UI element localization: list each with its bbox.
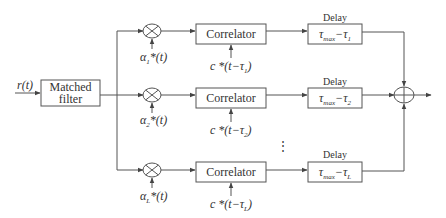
delay-L-to-summer-arrow	[362, 104, 404, 171]
code-L-label: c *(t−τL)	[210, 197, 252, 213]
input-signal: r(t)	[15, 78, 40, 93]
input-label: r(t)	[17, 78, 33, 92]
multiplier-icon	[143, 88, 161, 102]
more-branches-ellipsis: ⋮	[277, 139, 289, 153]
code-2-label: c *(t−τ2)	[210, 123, 252, 139]
multiplier-icon	[143, 24, 161, 38]
matched-filter-label-line2: filter	[59, 92, 82, 106]
summer-plus-icon	[394, 87, 414, 103]
multiplier-icon	[143, 163, 161, 177]
weight-L-label: αL*(t)	[140, 189, 168, 205]
code-1-label: c *(t−τ1)	[210, 59, 252, 75]
delay-1-to-summer-arrow	[362, 32, 404, 86]
weight-1-label: α1*(t)	[140, 50, 167, 66]
weight-2-label: α2*(t)	[140, 113, 167, 129]
delay-L-title: Delay	[323, 149, 347, 160]
delay-2-title: Delay	[323, 76, 347, 87]
correlator-L-label: Correlator	[206, 165, 255, 179]
matched-filter-block: Matched filter	[41, 80, 100, 106]
branch-2: α2*(t) Correlator c *(t−τ2) Delay τmax−τ…	[117, 76, 394, 139]
correlator-2-label: Correlator	[206, 91, 255, 105]
branch-1: α1*(t) Correlator c *(t−τ1) Delay τmax−τ…	[117, 12, 404, 86]
delay-1-title: Delay	[323, 12, 347, 23]
correlator-1-label: Correlator	[206, 27, 255, 41]
rake-receiver-diagram: r(t) Matched filter α1*(t) Correlator c …	[0, 0, 446, 218]
